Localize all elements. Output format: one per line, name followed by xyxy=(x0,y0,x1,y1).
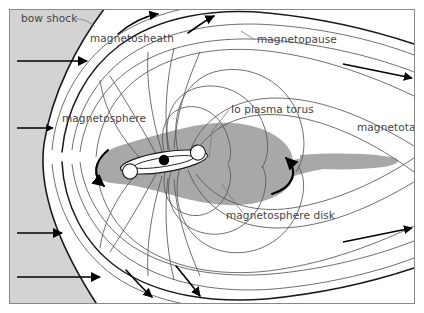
label-magnetopause: magnetopause xyxy=(257,33,337,45)
planet-jupiter xyxy=(159,155,169,165)
label-magnetotail: magnetotail xyxy=(357,121,421,133)
label-bow-shock: bow shock xyxy=(21,12,78,24)
label-magnetosheath: magnetosheath xyxy=(90,32,174,44)
magnetosphere-diagram: bow shock magnetosheath magnetopause mag… xyxy=(0,0,424,313)
magnetotail-band xyxy=(300,154,398,170)
label-io-plasma-torus: Io plasma torus xyxy=(231,103,314,115)
diagram-canvas: bow shock magnetosheath magnetopause mag… xyxy=(0,0,424,313)
label-magnetosphere: magnetosphere xyxy=(62,112,146,124)
label-magnetosphere-disk: magnetosphere disk xyxy=(226,209,336,221)
